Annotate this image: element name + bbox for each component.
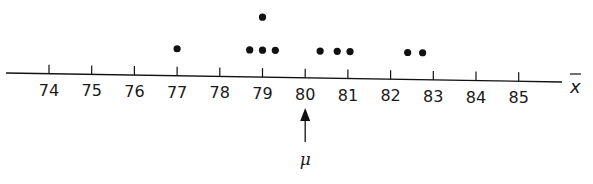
data-point [259,47,266,54]
x-tick-label: 80 [295,85,315,104]
data-points [174,14,427,57]
data-point [334,48,341,55]
x-axis-label: x [569,76,581,97]
x-tick-label: 84 [466,88,486,107]
x-tick-label: 75 [82,81,102,100]
data-point [272,47,279,54]
data-point [174,45,181,52]
data-point [419,49,426,56]
arrow-up-icon [300,108,310,121]
mu-label: μ [300,149,311,169]
x-tick-label: 74 [39,81,59,100]
data-point [317,47,324,54]
data-point [404,49,411,56]
data-point [246,46,253,53]
x-tick-label: 78 [210,83,230,102]
x-tick-label: 83 [423,87,443,106]
mu-annotation: μ [300,108,311,169]
x-tick-label: 85 [509,88,529,107]
x-tick-label: 81 [338,86,358,105]
dot-plot-chart: x 747576777879808182838485 μ [0,0,593,184]
data-point [259,14,266,21]
x-tick-label: 77 [167,83,187,102]
x-tick-label: 82 [380,86,400,105]
x-tick-label: 79 [252,84,272,103]
x-tick-label: 76 [124,82,144,101]
x-axis-ticks: 747576777879808182838485 [39,65,529,108]
data-point [346,48,353,55]
